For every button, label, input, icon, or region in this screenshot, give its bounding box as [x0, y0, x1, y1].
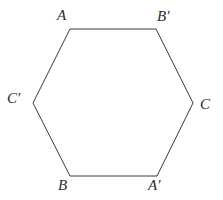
vertex-label-c: C: [200, 97, 210, 112]
vertex-label-b-prime: B′: [157, 9, 169, 24]
vertex-label-c-prime: C′: [7, 91, 20, 106]
hexagon-drawing-canvas: [0, 0, 223, 200]
hexagon-outline: [33, 29, 193, 176]
vertex-label-a-prime: A′: [148, 178, 160, 193]
vertex-label-a: A: [57, 8, 66, 23]
vertex-label-b: B: [58, 178, 67, 193]
hexagon-figure: A B′ C A′ B C′: [0, 0, 223, 200]
